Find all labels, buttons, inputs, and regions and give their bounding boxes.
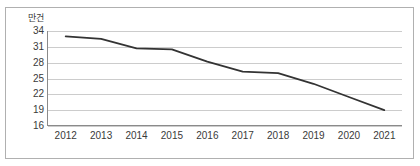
x-axis-tick-label: 2014 <box>119 130 154 142</box>
x-axis-tick-labels: 2012201320142015201620172018201920202021 <box>48 130 402 142</box>
x-axis-tick-label: 2012 <box>48 130 83 142</box>
x-axis-tick-label: 2018 <box>260 130 295 142</box>
x-axis-tick-label: 2020 <box>331 130 366 142</box>
x-axis-tick-label: 2019 <box>296 130 331 142</box>
x-axis-tick-label: 2016 <box>190 130 225 142</box>
x-axis-tick-label: 2021 <box>367 130 402 142</box>
chart-frame: 만건 34312825221916 2012201320142015201620… <box>5 7 414 159</box>
data-line-series <box>48 31 402 126</box>
y-axis-tick-label: 28 <box>4 58 44 68</box>
y-axis-tick-label: 34 <box>4 26 44 36</box>
plot-area: 만건 34312825221916 2012201320142015201620… <box>6 8 413 158</box>
x-axis-tick-label: 2017 <box>225 130 260 142</box>
x-axis-tick-label: 2015 <box>154 130 189 142</box>
gridline <box>48 126 402 127</box>
y-axis-tick-label: 16 <box>4 121 44 131</box>
y-axis-tick-label: 31 <box>4 42 44 52</box>
cropped-title-remnant <box>0 0 420 7</box>
y-axis-tick-label: 19 <box>4 105 44 115</box>
y-axis-tick-label: 22 <box>4 89 44 99</box>
x-axis-tick-label: 2013 <box>83 130 118 142</box>
y-axis-tick-label: 25 <box>4 74 44 84</box>
y-axis-unit-label: 만건 <box>28 13 44 23</box>
chart-screenshot: 만건 34312825221916 2012201320142015201620… <box>0 0 420 166</box>
